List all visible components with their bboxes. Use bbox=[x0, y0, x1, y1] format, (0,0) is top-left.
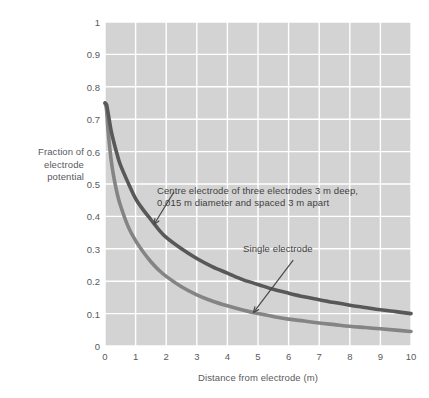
x-axis-tick-labels: 012345678910 bbox=[105, 351, 411, 367]
x-tick-label: 5 bbox=[245, 351, 271, 362]
annotation-centre-electrode: Centre electrode of three electrodes 3 m… bbox=[157, 185, 358, 209]
y-tick-label: 0.9 bbox=[76, 49, 100, 60]
x-tick-label: 8 bbox=[337, 351, 363, 362]
plot-area bbox=[105, 22, 411, 346]
x-tick-label: 0 bbox=[92, 351, 118, 362]
chart-figure: Fraction of electrode potential 00.10.20… bbox=[0, 0, 429, 398]
x-tick-label: 2 bbox=[153, 351, 179, 362]
y-tick-label: 0.2 bbox=[76, 276, 100, 287]
y-tick-label: 0.4 bbox=[76, 211, 100, 222]
y-axis-title-line-3: potential bbox=[6, 171, 84, 184]
y-tick-label: 0.5 bbox=[76, 179, 100, 190]
y-tick-label: 0.3 bbox=[76, 243, 100, 254]
y-tick-label: 0.6 bbox=[76, 146, 100, 157]
y-axis-title: Fraction of electrode potential bbox=[6, 146, 84, 184]
y-tick-label: 0.7 bbox=[76, 114, 100, 125]
x-axis-title: Distance from electrode (m) bbox=[105, 372, 411, 383]
x-tick-label: 1 bbox=[123, 351, 149, 362]
y-tick-label: 0 bbox=[76, 341, 100, 352]
x-tick-label: 6 bbox=[276, 351, 302, 362]
annotation-arrow-layer bbox=[105, 22, 411, 346]
annotation-centre-electrode-line-1: Centre electrode of three electrodes 3 m… bbox=[157, 185, 358, 197]
y-tick-label: 0.1 bbox=[76, 308, 100, 319]
y-axis-tick-labels: 00.10.20.30.40.50.60.70.80.91 bbox=[74, 22, 100, 346]
annotation-centre-electrode-line-2: 0.015 m diameter and spaced 3 m apart bbox=[157, 197, 358, 209]
arrow-single-electrode bbox=[253, 260, 293, 312]
y-axis-title-line-2: electrode bbox=[6, 159, 84, 172]
x-tick-label: 4 bbox=[214, 351, 240, 362]
y-tick-label: 1 bbox=[76, 17, 100, 28]
x-tick-label: 7 bbox=[306, 351, 332, 362]
y-axis-title-line-1: Fraction of bbox=[6, 146, 84, 159]
x-tick-label: 10 bbox=[398, 351, 424, 362]
annotation-single-electrode: Single electrode bbox=[243, 243, 313, 255]
x-tick-label: 3 bbox=[184, 351, 210, 362]
y-tick-label: 0.8 bbox=[76, 81, 100, 92]
x-tick-label: 9 bbox=[367, 351, 393, 362]
